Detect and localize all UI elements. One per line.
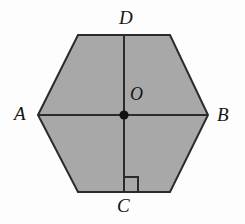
geometry-figure: A B C D O [0,0,245,224]
geometry-canvas [0,0,245,224]
center-label-o: O [130,85,143,103]
vertex-label-d: D [119,8,133,27]
vertex-label-b: B [217,105,229,124]
vertex-label-a: A [14,104,26,123]
center-point-dot [119,110,128,119]
vertex-label-c: C [117,196,130,215]
